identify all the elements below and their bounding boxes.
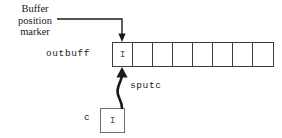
outbuff-label: outbuff xyxy=(46,48,90,59)
buffer-cell xyxy=(153,43,173,66)
buffer-cell xyxy=(213,43,233,66)
sputc-arrowhead-icon xyxy=(116,67,127,78)
buffer-diagram: Buffer position marker outbuff I sputc c… xyxy=(0,0,282,138)
buffer-array: I xyxy=(112,42,274,67)
buffer-cell xyxy=(173,43,193,66)
source-character-box: I xyxy=(100,108,125,133)
buffer-cell: I xyxy=(113,43,133,66)
sputc-operation-label: sputc xyxy=(130,80,162,91)
buffer-cell xyxy=(233,43,253,66)
sputc-curve-line xyxy=(118,74,122,108)
buffer-cell xyxy=(133,43,153,66)
buffer-cell xyxy=(253,43,273,66)
source-variable-label: c xyxy=(84,112,90,123)
marker-arrowhead-icon xyxy=(118,34,125,42)
buffer-cell xyxy=(193,43,213,66)
marker-leader-line xyxy=(57,19,122,34)
buffer-position-marker-label: Buffer position marker xyxy=(12,3,58,38)
